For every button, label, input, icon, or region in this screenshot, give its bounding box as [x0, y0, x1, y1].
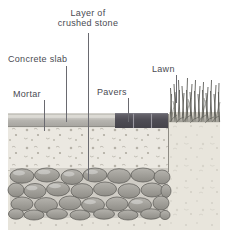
pavers-layer	[115, 113, 168, 128]
label-crushed-stone-line1: Layer of	[71, 8, 106, 18]
leader-line-mortar	[44, 100, 45, 131]
leader-line-lawn	[176, 75, 177, 103]
label-layer-of-crushed-stone: Layer of crushed stone	[38, 8, 138, 28]
label-pavers: Pavers	[97, 87, 127, 97]
cobblestone-base-layer	[8, 168, 171, 220]
label-lawn: Lawn	[152, 64, 175, 74]
mortar-layer	[8, 114, 115, 117]
label-mortar: Mortar	[13, 89, 41, 99]
leader-line-concrete-slab	[66, 66, 67, 122]
label-concrete-slab: Concrete slab	[8, 54, 67, 64]
paving-cross-section-diagram: Layer of crushed stone Concrete slab Mor…	[0, 0, 228, 238]
leader-line-pavers	[128, 98, 129, 122]
concrete-slab-layer	[8, 117, 115, 127]
lawn-topsoil-layer	[169, 120, 220, 230]
label-crushed-stone-line2: crushed stone	[58, 18, 118, 28]
diagram-canvas	[0, 0, 228, 238]
leader-line-crushed-stone	[88, 33, 89, 180]
